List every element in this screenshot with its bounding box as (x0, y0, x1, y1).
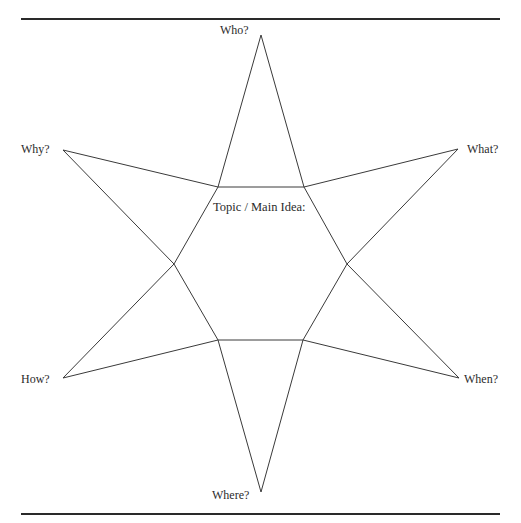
star-shape (63, 35, 459, 492)
center-topic-label: Topic / Main Idea: (213, 200, 306, 214)
point-label-who: Who? (220, 23, 249, 37)
point-label-when: When? (464, 372, 498, 386)
star-outline (0, 0, 521, 523)
point-label-what: What? (467, 142, 498, 156)
point-label-how: How? (21, 372, 50, 386)
bottom-rule (21, 513, 500, 515)
point-label-where: Where? (212, 488, 249, 502)
point-label-why: Why? (21, 142, 50, 156)
